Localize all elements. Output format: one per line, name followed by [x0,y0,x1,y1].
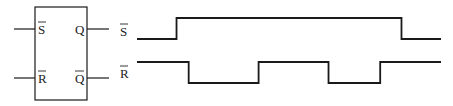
output-label-q: Q [75,22,85,37]
output-label-qbar: Q [75,71,85,86]
latch-box [35,7,87,100]
wave-label-s: S [120,24,127,39]
input-label-s: S [38,22,45,37]
timing-diagram: S R [120,18,441,83]
latch-block: S R Q Q [14,7,109,100]
input-label-r: R [38,71,47,86]
sr-latch-diagram: S R Q Q S R [0,0,453,106]
waveform-r [137,62,441,83]
waveform-s [137,18,441,39]
wave-label-r: R [120,66,129,81]
